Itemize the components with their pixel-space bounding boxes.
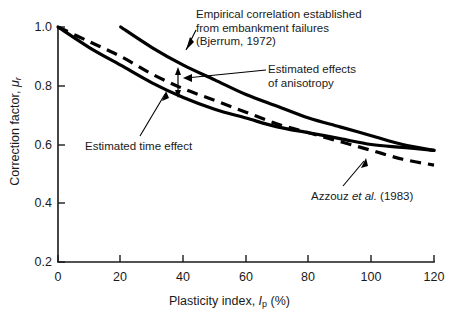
y-axis-title: Correction factor, μr xyxy=(8,77,23,186)
x-tick-label: 60 xyxy=(239,270,253,284)
azzouz-et-al: et al. xyxy=(352,190,377,202)
x-tick-label: 20 xyxy=(113,270,127,284)
y-tick-label: 0.2 xyxy=(35,255,52,269)
y-axis-title-wrapper: Correction factor, μr xyxy=(2,0,28,262)
annotation-anisotropy: Estimated effects of anisotropy xyxy=(268,63,356,90)
plot-canvas: 1.0 0.8 0.6 0.4 0.2 0 20 40 60 80 100 12… xyxy=(0,0,459,326)
annotation-time-effect: Estimated time effect xyxy=(85,140,192,154)
x-axis-title-suffix: (%) xyxy=(267,294,290,308)
azzouz-leader-line xyxy=(343,158,368,186)
x-axis-title: Plasticity index, Ip (%) xyxy=(0,294,459,309)
x-tick-label: 80 xyxy=(301,270,315,284)
time-effect-leader-line xyxy=(140,91,169,136)
y-axis-symbol: μ xyxy=(8,80,22,87)
y-tick-label: 0.6 xyxy=(35,138,52,152)
y-axis-ticks xyxy=(58,27,65,262)
y-tick-label: 1.0 xyxy=(35,20,52,34)
y-axis-subscript: r xyxy=(12,77,22,80)
x-tick-label: 40 xyxy=(176,270,190,284)
annotation-bjerrum: Empirical correlation established from e… xyxy=(196,8,362,49)
x-axis-title-prefix: Plasticity index, xyxy=(169,294,259,308)
y-tick-label: 0.4 xyxy=(35,196,52,210)
y-tick-label: 0.8 xyxy=(35,79,52,93)
azzouz-prefix: Azzouz xyxy=(311,190,352,202)
annotation-azzouz: Azzouz et al. (1983) xyxy=(311,190,413,204)
chart-figure: 1.0 0.8 0.6 0.4 0.2 0 20 40 60 80 100 12… xyxy=(0,0,459,326)
y-tick-labels: 1.0 0.8 0.6 0.4 0.2 xyxy=(35,20,52,269)
y-axis-title-prefix: Correction factor, xyxy=(8,87,22,186)
x-axis-ticks xyxy=(58,255,434,262)
x-tick-label: 100 xyxy=(361,270,382,284)
x-tick-label: 0 xyxy=(55,270,62,284)
x-tick-label: 120 xyxy=(424,270,445,284)
azzouz-suffix: (1983) xyxy=(377,190,413,202)
bjerrum-arrow-head xyxy=(186,37,194,50)
x-tick-labels: 0 20 40 60 80 100 120 xyxy=(55,270,445,284)
